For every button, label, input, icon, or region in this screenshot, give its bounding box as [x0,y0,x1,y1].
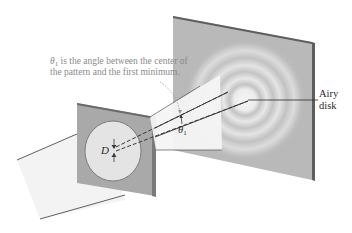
aperture-plate [77,103,156,197]
annotation-line-1: is the angle between the center of [58,56,188,66]
annotation-line-2: the pattern and the first minimum. [50,67,180,77]
airy-label-line-2: disk [319,100,337,111]
airy-disk-label: Airy disk [319,88,338,112]
airy-label-line-1: Airy [319,88,338,99]
theta-label-subscript: 1 [183,129,187,137]
aperture-diameter-label: D [101,145,109,156]
annotation-text: θ1 is the angle between the center of th… [50,56,188,78]
circular-aperture [85,121,141,181]
theta-label: θ1 [178,124,187,135]
diffraction-diagram [0,0,352,233]
